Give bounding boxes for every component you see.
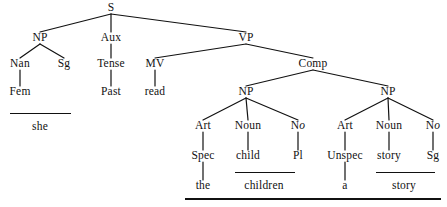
- tree-node-np1: NP: [32, 32, 47, 44]
- tree-node-noun2: Noun: [376, 120, 402, 132]
- branch-np2-to-art1: [203, 98, 246, 120]
- rule-story: [376, 172, 435, 173]
- syntax-tree-diagram: SNPAuxVPNanSgTenseMVCompFemPastreadNPNPA…: [0, 0, 447, 207]
- branch-np1-to-nan: [20, 44, 40, 58]
- branch-vp-to-comp: [246, 44, 313, 58]
- italic-subscript: o: [434, 119, 440, 131]
- tree-node-vp: VP: [238, 32, 253, 44]
- tree-node-art1: Art: [195, 120, 211, 132]
- branch-np2-to-noun1: [246, 98, 248, 120]
- tree-node-child: child: [236, 150, 260, 162]
- tree-node-s: S: [108, 2, 115, 14]
- tree-node-pl: Pl: [293, 150, 303, 162]
- tree-node-art2: Art: [337, 120, 353, 132]
- branch-s-to-vp: [111, 14, 246, 32]
- branch-s-to-np1: [40, 14, 111, 32]
- branch-np2-to-no1: [246, 98, 298, 120]
- branch-np3-to-no2: [388, 98, 433, 120]
- rule-children: [235, 172, 295, 173]
- tree-node-no1: No: [291, 120, 305, 132]
- tree-node-w-she: she: [32, 121, 48, 133]
- tree-node-w-story: story: [392, 180, 416, 192]
- branch-np3-to-art2: [345, 98, 388, 120]
- rule-she: [10, 113, 71, 114]
- tree-node-unspec: Unspec: [327, 150, 363, 162]
- tree-node-aux: Aux: [101, 32, 121, 44]
- tree-node-nan: Nan: [10, 58, 30, 70]
- tree-node-np3: NP: [380, 86, 395, 98]
- tree-node-fem: Fem: [9, 86, 30, 98]
- tree-node-tense: Tense: [97, 58, 125, 70]
- branch-comp-to-np2: [246, 70, 313, 86]
- italic-subscript: o: [299, 119, 305, 131]
- branch-comp-to-np3: [313, 70, 388, 86]
- tree-node-sg1: Sg: [58, 58, 71, 70]
- tree-node-noun1: Noun: [235, 120, 261, 132]
- tree-node-comp: Comp: [299, 58, 328, 70]
- tree-node-read: read: [145, 86, 166, 98]
- tree-node-sg2: Sg: [427, 150, 440, 162]
- tree-node-no2: No: [426, 120, 440, 132]
- tree-node-w-a: a: [342, 180, 347, 192]
- tree-node-spec: Spec: [191, 150, 214, 162]
- tree-node-story: story: [377, 150, 401, 162]
- tree-node-np2: NP: [238, 86, 253, 98]
- tree-node-w-children: children: [244, 180, 283, 192]
- tree-branch-lines: [0, 0, 447, 207]
- rule-clause: [185, 198, 441, 200]
- tree-node-mv: MV: [146, 58, 165, 70]
- tree-node-past: Past: [101, 86, 121, 98]
- branch-np3-to-noun2: [388, 98, 389, 120]
- branch-vp-to-mv: [155, 44, 246, 58]
- tree-node-w-the: the: [196, 180, 211, 192]
- branch-np1-to-sg1: [40, 44, 64, 58]
